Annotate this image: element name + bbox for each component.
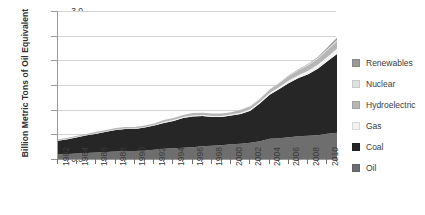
- legend-item-renewables[interactable]: Renewables: [352, 52, 425, 73]
- x-axis-tick: [211, 159, 212, 164]
- x-axis-tick: [153, 159, 154, 164]
- legend-item-nuclear[interactable]: Nuclear: [352, 73, 425, 94]
- x-axis-tick: [115, 159, 116, 164]
- x-axis-tick-label: 1998: [214, 147, 224, 166]
- legend-swatch-icon: [352, 122, 360, 130]
- x-axis-tick-label: 2004: [272, 147, 282, 166]
- x-axis-tick-label: 1992: [157, 147, 167, 166]
- x-axis-tick-label: 1996: [195, 147, 205, 166]
- x-axis-tick-label: 1990: [137, 147, 147, 166]
- legend-item-gas[interactable]: Gas: [352, 115, 425, 136]
- x-axis-tick-label: 1984: [80, 147, 90, 166]
- x-axis-tick-label: 1994: [176, 147, 186, 166]
- y-axis-title: Billion Metric Tons of Oil Equivalent: [20, 0, 30, 168]
- x-axis-tick-label: 1982: [61, 147, 71, 166]
- legend-item-label: Coal: [366, 142, 383, 152]
- x-axis-tick: [76, 159, 77, 164]
- legend-swatch-icon: [352, 59, 360, 67]
- x-axis-tick: [288, 159, 289, 164]
- x-axis-tick: [230, 159, 231, 164]
- x-axis-tick-label: 2008: [311, 147, 321, 166]
- legend-item-label: Hydroelectric: [366, 100, 416, 110]
- x-axis-tick: [57, 159, 58, 164]
- x-axis-tick: [249, 159, 250, 164]
- x-axis-tick-label: 2010: [330, 147, 340, 166]
- x-axis-tick-label: 1986: [99, 147, 109, 166]
- chart-legend: RenewablesNuclearHydroelectricGasCoalOil: [352, 52, 425, 178]
- legend-item-label: Nuclear: [366, 79, 395, 89]
- x-axis-tick-label: 1988: [118, 147, 128, 166]
- x-axis-tick: [326, 159, 327, 164]
- legend-swatch-icon: [352, 80, 360, 88]
- legend-item-oil[interactable]: Oil: [352, 157, 425, 178]
- plot-area: [57, 11, 336, 159]
- legend-item-hydroelectric[interactable]: Hydroelectric: [352, 94, 425, 115]
- stacked-area-chart: Billion Metric Tons of Oil Equivalent 0.…: [0, 0, 425, 215]
- legend-swatch-icon: [352, 101, 360, 109]
- legend-item-label: Gas: [366, 121, 382, 131]
- legend-swatch-icon: [352, 164, 360, 172]
- x-axis-tick-label: 2006: [291, 147, 301, 166]
- legend-swatch-icon: [352, 143, 360, 151]
- x-axis-tick-label: 2002: [253, 147, 263, 166]
- x-axis-tick: [172, 159, 173, 164]
- legend-item-label: Oil: [366, 163, 376, 173]
- legend-item-label: Renewables: [366, 58, 413, 68]
- x-axis-tick-label: 2000: [234, 147, 244, 166]
- x-axis-tick: [192, 159, 193, 164]
- x-axis-tick: [134, 159, 135, 164]
- x-axis-tick: [307, 159, 308, 164]
- area-series-group: [58, 11, 337, 159]
- x-axis-tick: [269, 159, 270, 164]
- legend-item-coal[interactable]: Coal: [352, 136, 425, 157]
- x-axis-tick: [95, 159, 96, 164]
